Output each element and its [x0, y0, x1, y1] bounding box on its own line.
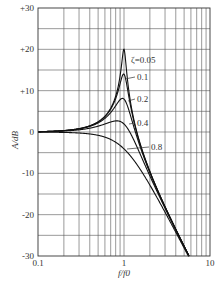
y-tick-label: +10 [20, 86, 35, 96]
y-tick-label: +20 [20, 44, 35, 54]
x-tick-label: 0.1 [32, 258, 43, 268]
series-label: 0.2 [137, 94, 148, 104]
series-label: 0.8 [151, 142, 163, 152]
series-label: ζ=0.05 [131, 55, 156, 65]
y-tick-label: +30 [20, 3, 35, 13]
y-tick-label: -20 [22, 210, 34, 220]
y-axis-label: A/dB [10, 131, 20, 150]
bode-magnitude-chart: +30+20+100-10-20-300.1110ζ=0.050.10.20.4… [0, 0, 216, 288]
labels: +30+20+100-10-20-300.1110ζ=0.050.10.20.4… [20, 3, 215, 268]
x-tick-label: 10 [206, 258, 216, 268]
leader-line [125, 77, 135, 79]
x-tick-label: 1 [122, 258, 127, 268]
x-axis-label: f/f0 [118, 268, 131, 278]
curve-zeta-0.2 [38, 98, 189, 256]
y-tick-label: 0 [30, 127, 35, 137]
y-tick-label: -10 [22, 168, 34, 178]
series-label: 0.1 [137, 72, 148, 82]
series-label: 0.4 [137, 118, 149, 128]
